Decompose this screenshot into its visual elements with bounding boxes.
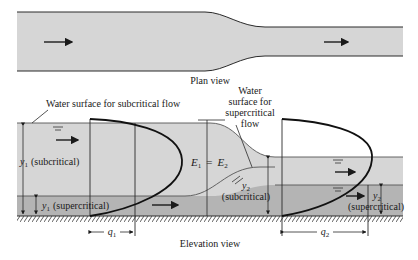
svg-text:(subcritical): (subcritical)	[222, 191, 270, 203]
supercritical-surface-label: Water surface for supercritical flow	[225, 85, 275, 129]
subcritical-surface-leader	[32, 110, 48, 123]
elevation-view-caption: Elevation view	[180, 238, 241, 249]
svg-text:supercritical: supercritical	[225, 107, 275, 118]
elevation-view: Water surface for subcritical flow Water…	[17, 85, 404, 249]
plan-view-caption: Plan view	[190, 75, 230, 86]
svg-text:flow: flow	[241, 118, 260, 129]
svg-text:(supercritical): (supercritical)	[348, 201, 404, 213]
subcritical-surface-label: Water surface for subcritical flow	[46, 98, 181, 109]
plan-view: Plan view	[17, 12, 403, 86]
svg-text:surface for: surface for	[228, 96, 272, 107]
energy-equation-label: E1=E2	[190, 156, 228, 170]
svg-text:Water: Water	[238, 85, 262, 96]
channel-transition-diagram: Plan view	[0, 0, 418, 260]
bed-hatching	[17, 216, 403, 222]
